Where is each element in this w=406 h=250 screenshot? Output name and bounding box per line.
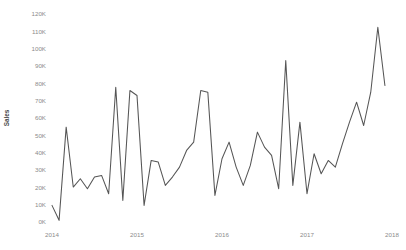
y-axis-title-text: Sales	[3, 109, 10, 126]
y-tick-label: 40K	[35, 149, 47, 156]
x-tick-label: 2015	[130, 231, 144, 238]
sales-series-line	[52, 27, 385, 220]
chart-canvas: 0K10K20K30K40K50K60K70K80K90K100K110K120…	[0, 0, 406, 250]
y-tick-label: 90K	[35, 62, 47, 69]
y-tick-label: 0K	[38, 218, 46, 225]
x-tick-label: 2016	[215, 231, 229, 238]
y-tick-label: 20K	[35, 184, 47, 191]
sales-line-chart: 0K10K20K30K40K50K60K70K80K90K100K110K120…	[0, 0, 406, 250]
y-tick-label: 60K	[35, 114, 47, 121]
y-tick-label: 10K	[35, 201, 47, 208]
y-tick-label: 30K	[35, 166, 47, 173]
x-tick-label: 2018	[385, 231, 399, 238]
y-tick-label: 80K	[35, 80, 47, 87]
y-tick-label: 50K	[35, 132, 47, 139]
x-tick-label: 2014	[45, 231, 59, 238]
y-tick-label: 100K	[32, 45, 47, 52]
y-axis-title: Sales	[3, 109, 10, 126]
y-tick-label: 120K	[32, 10, 47, 17]
y-axis-tick-labels: 0K10K20K30K40K50K60K70K80K90K100K110K120…	[32, 10, 47, 225]
x-axis-tick-labels: 20142015201620172018	[45, 231, 399, 238]
x-tick-label: 2017	[300, 231, 314, 238]
y-tick-label: 70K	[35, 97, 47, 104]
y-tick-label: 110K	[32, 28, 47, 35]
